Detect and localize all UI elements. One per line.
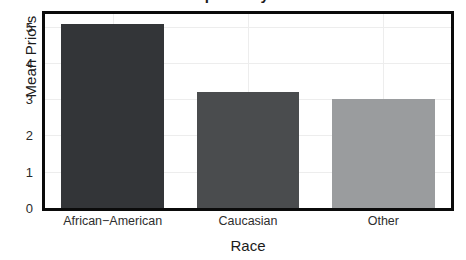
bar-african-american[interactable] [61,24,164,208]
bar-other[interactable] [332,99,435,209]
bar-caucasian[interactable] [197,92,300,208]
y-axis-tick-label: 4 [0,55,33,70]
x-axis-tick-label: African−American [63,214,162,228]
x-axis-tick-label: Other [368,214,399,228]
bar-chart: Mean priors by race Mean Priors 012345 A… [0,0,466,260]
plot-panel [42,11,454,211]
x-axis-tick-labels: African−AmericanCaucasianOther [42,214,454,236]
y-axis-tick-label: 2 [0,128,33,143]
y-axis-tick-label: 3 [0,92,33,107]
y-axis-tick-label: 0 [0,201,33,216]
y-axis-tick-labels: 012345 [0,0,40,260]
plot-area [45,14,451,208]
x-axis-title: Race [42,237,454,254]
y-axis-tick-label: 1 [0,164,33,179]
x-axis-tick-label: Caucasian [218,214,277,228]
gridline-horizontal [45,208,451,209]
chart-title: Mean priors by race [0,0,466,3]
y-axis-tick-label: 5 [0,19,33,34]
